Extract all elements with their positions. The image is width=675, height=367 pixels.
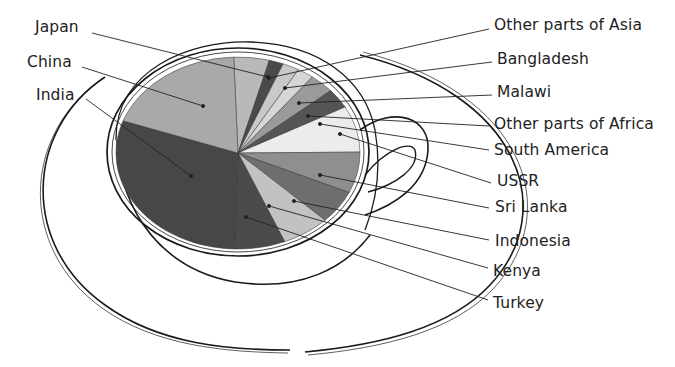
label-india: India [36,86,75,104]
leader-dot [267,76,270,79]
leader-line [285,62,492,88]
leader-line [340,134,491,183]
label-kenya: Kenya [493,262,541,280]
leader-dot [292,199,295,202]
label-other-parts-of-asia: Other parts of Asia [494,16,642,34]
leader-line [246,217,488,300]
label-other-parts-of-africa: Other parts of Africa [494,115,654,133]
label-china: China [27,53,72,71]
label-japan: Japan [35,18,79,36]
leader-dot [267,204,270,207]
leader-dot [318,122,321,125]
label-south-america: South America [494,141,609,159]
label-turkey: Turkey [493,294,544,312]
label-bangladesh: Bangladesh [497,50,589,68]
label-malawi: Malawi [497,83,551,101]
leader-dot [318,173,321,176]
leader-dot [297,101,300,104]
leader-line [269,29,489,78]
teacup-pie-chart: JapanChinaIndiaOther parts of AsiaBangla… [0,0,675,367]
leader-dot [338,132,341,135]
label-ussr: USSR [497,172,539,190]
label-indonesia: Indonesia [495,232,571,250]
label-sri-lanka: Sri Lanka [495,198,568,216]
leader-dot [306,114,309,117]
leader-dot [283,86,286,89]
leader-dot [189,174,192,177]
leader-dot [201,104,204,107]
leader-dot [244,215,247,218]
leader-line [269,206,488,268]
pie-slices [116,57,360,249]
